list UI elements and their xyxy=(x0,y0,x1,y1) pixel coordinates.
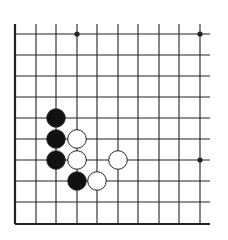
hoshi-point xyxy=(74,31,79,36)
grid-lines xyxy=(15,24,210,224)
go-board xyxy=(0,0,228,240)
black-stone xyxy=(68,172,87,191)
black-stone xyxy=(47,151,66,170)
black-stone xyxy=(47,109,66,128)
stones xyxy=(47,109,128,191)
white-stone xyxy=(68,130,87,149)
hoshi-point xyxy=(197,157,202,162)
hoshi-point xyxy=(197,31,202,36)
white-stone xyxy=(109,151,128,170)
black-stone xyxy=(47,130,66,149)
white-stone xyxy=(68,151,87,170)
white-stone xyxy=(88,172,107,191)
